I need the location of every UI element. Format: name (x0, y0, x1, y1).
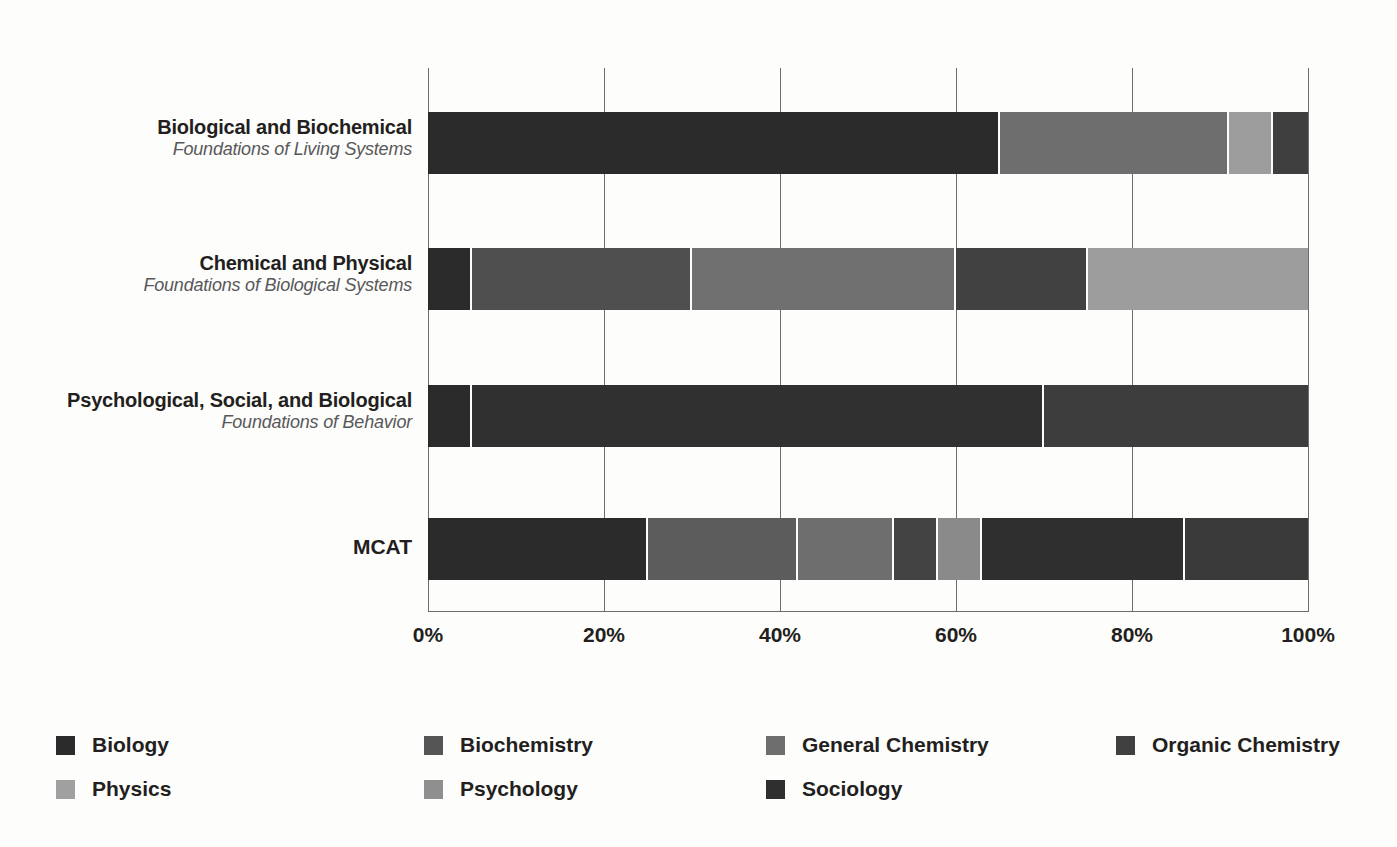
legend-item[interactable]: General Chemistry (766, 733, 989, 757)
legend-swatch-icon (1116, 736, 1135, 755)
bar-row (428, 248, 1308, 310)
bar-segment[interactable] (648, 518, 798, 580)
legend-swatch-icon (56, 736, 75, 755)
legend-label: Biology (92, 733, 169, 757)
bar-segment[interactable] (428, 385, 472, 447)
bar-segment[interactable] (692, 248, 956, 310)
legend-swatch-icon (56, 780, 75, 799)
x-tick-label: 100% (1281, 623, 1335, 647)
x-tick-label: 20% (583, 623, 625, 647)
x-axis-line (428, 611, 1309, 612)
bar-segment[interactable] (1088, 248, 1308, 310)
legend-item[interactable]: Organic Chemistry (1116, 733, 1340, 757)
bar-segment[interactable] (1000, 112, 1229, 174)
bar-segment[interactable] (798, 518, 895, 580)
bar-segment[interactable] (428, 518, 648, 580)
legend-swatch-icon (766, 780, 785, 799)
bar-segment[interactable] (1273, 112, 1308, 174)
x-tick-label: 80% (1111, 623, 1153, 647)
stacked-bar-chart: 0%20%40%60%80%100% Biological and Bioche… (0, 0, 1397, 847)
category-label: MCAT (22, 535, 412, 559)
gridline-100pct (1308, 68, 1309, 612)
bar-segment[interactable] (894, 518, 938, 580)
legend-item[interactable]: Sociology (766, 777, 902, 801)
bar-segment[interactable] (428, 112, 1000, 174)
bar-row (428, 112, 1308, 174)
x-tick-label: 40% (759, 623, 801, 647)
category-label: Chemical and PhysicalFoundations of Biol… (22, 252, 412, 296)
category-label-main: Chemical and Physical (22, 252, 412, 275)
bar-row (428, 518, 1308, 580)
legend-label: Biochemistry (460, 733, 593, 757)
category-label-sub: Foundations of Living Systems (22, 139, 412, 160)
legend-item[interactable]: Psychology (424, 777, 578, 801)
legend-item[interactable]: Biochemistry (424, 733, 593, 757)
category-label-sub: Foundations of Biological Systems (22, 275, 412, 296)
legend-item[interactable]: Biology (56, 733, 169, 757)
legend-label: Psychology (460, 777, 578, 801)
legend-swatch-icon (424, 736, 443, 755)
legend-label: Sociology (802, 777, 902, 801)
bar-segment[interactable] (472, 385, 1044, 447)
bar-segment[interactable] (938, 518, 982, 580)
legend-label: Physics (92, 777, 171, 801)
x-tick-label: 0% (413, 623, 443, 647)
category-label-main: Biological and Biochemical (22, 116, 412, 139)
bar-segment[interactable] (956, 248, 1088, 310)
legend-swatch-icon (766, 736, 785, 755)
legend-label: General Chemistry (802, 733, 989, 757)
category-label: Psychological, Social, and BiologicalFou… (22, 389, 412, 433)
category-label-main: Psychological, Social, and Biological (22, 389, 412, 412)
category-label-sub: Foundations of Behavior (22, 412, 412, 433)
legend-item[interactable]: Physics (56, 777, 171, 801)
bar-segment[interactable] (472, 248, 692, 310)
category-label: Biological and BiochemicalFoundations of… (22, 116, 412, 160)
legend-swatch-icon (424, 780, 443, 799)
legend-label: Organic Chemistry (1152, 733, 1340, 757)
bar-segment[interactable] (1185, 518, 1308, 580)
bar-segment[interactable] (982, 518, 1184, 580)
bar-segment[interactable] (1229, 112, 1273, 174)
bar-segment[interactable] (1044, 385, 1308, 447)
x-tick-label: 60% (935, 623, 977, 647)
category-label-main: MCAT (22, 535, 412, 559)
bar-row (428, 385, 1308, 447)
bar-segment[interactable] (428, 248, 472, 310)
